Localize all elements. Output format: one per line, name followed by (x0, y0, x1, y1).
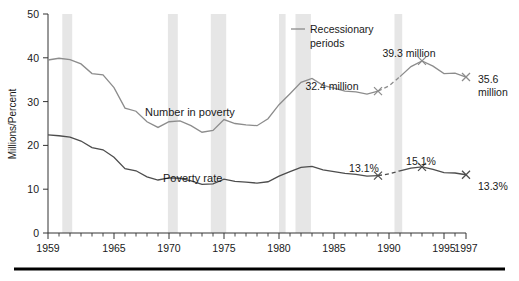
annotation-39-3-million: 39.3 million (382, 47, 435, 59)
y-tick-label-50: 50 (27, 8, 39, 20)
legend-label-line2: periods (310, 37, 344, 49)
poverty-chart: 01020304050 1959196519701975198019851990… (0, 0, 519, 281)
x-tick-label-1997: 1997 (454, 242, 478, 254)
x-tick-label-1965: 1965 (102, 242, 126, 254)
recession-band-0 (62, 14, 72, 233)
annotation-13-1-percent: 13.1% (349, 162, 379, 174)
legend-label-line1: Recessionary (310, 23, 374, 35)
annotation-35-6-million-line2: million (478, 86, 508, 98)
recession-band-4 (296, 14, 311, 233)
recession-band-1 (168, 14, 178, 233)
y-tick-label-30: 30 (27, 96, 39, 108)
y-axis-title: Millions/Percent (7, 88, 18, 159)
x-tick-label-1975: 1975 (212, 242, 236, 254)
x-tick-label-1985: 1985 (322, 242, 346, 254)
annotation-13-3-percent: 13.3% (478, 180, 508, 192)
annotation-35-6-million-line1: 35.6 (478, 73, 499, 85)
series-label-poverty-rate: Poverty rate (163, 172, 222, 184)
x-tick-label-1970: 1970 (157, 242, 181, 254)
y-tick-label-0: 0 (33, 227, 39, 239)
x-tick-label-1995: 1995 (432, 242, 456, 254)
annotation-32-4-million: 32.4 million (305, 80, 358, 92)
x-tick-label-1990: 1990 (377, 242, 401, 254)
x-tick-label-1959: 1959 (36, 242, 60, 254)
y-tick-label-40: 40 (27, 52, 39, 64)
series-label-number-in-poverty: Number in poverty (145, 106, 235, 118)
x-tick-label-1980: 1980 (267, 242, 291, 254)
recession-band-3 (279, 14, 286, 233)
y-tick-label-20: 20 (27, 139, 39, 151)
chart-canvas: 01020304050 1959196519701975198019851990… (0, 0, 519, 281)
annotation-15-1-percent: 15.1% (406, 155, 436, 167)
recession-band-2 (211, 14, 226, 233)
y-tick-label-10: 10 (27, 183, 39, 195)
